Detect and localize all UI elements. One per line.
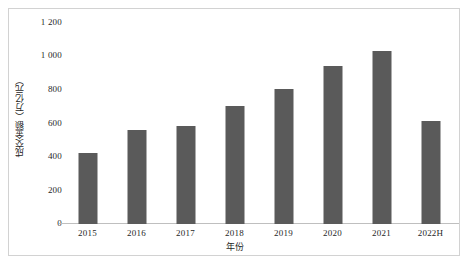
y-tick-1200: 1 200 [16,18,62,27]
x-tick-2021: 2021 [357,228,406,238]
x-tick-2020: 2020 [308,228,357,238]
bar-chart: 成交金额（万亿元） 1 200 1 000 800 600 400 200 0 [0,0,470,267]
x-axis-tick-labels: 2015 2016 2017 2018 2019 2020 2021 2022H [63,0,455,267]
x-tick-2022H: 2022H [406,228,455,238]
y-axis-tick-labels: 1 200 1 000 800 600 400 200 0 [8,0,62,267]
x-tick-2018: 2018 [210,228,259,238]
y-tick-800: 800 [16,85,62,94]
x-tick-2019: 2019 [259,228,308,238]
x-tick-2017: 2017 [161,228,210,238]
x-tick-2016: 2016 [112,228,161,238]
y-tick-400: 400 [16,152,62,161]
x-tick-2015: 2015 [63,228,112,238]
y-tick-0: 0 [16,219,62,228]
x-axis-title: 年份 [0,242,470,253]
y-tick-600: 600 [16,119,62,128]
y-tick-200: 200 [16,186,62,195]
y-tick-1000: 1 000 [16,51,62,60]
